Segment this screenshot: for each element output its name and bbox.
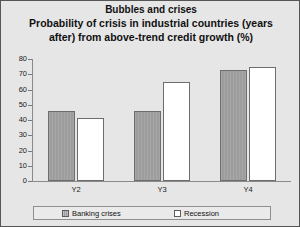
x-axis-tick-label: Y2 (33, 185, 119, 194)
y-axis-tick-label: 70 (7, 70, 27, 78)
plot-area: 01020304050607080 Y2Y3Y4 Banking crises … (7, 59, 295, 199)
legend-swatch-banking-crises (62, 210, 69, 217)
legend-label-recession: Recession (184, 209, 219, 218)
chart-subtitle-line-1: Probability of crisis in industrial coun… (7, 17, 295, 30)
bar (77, 118, 104, 181)
bar (48, 111, 75, 181)
y-axis-tick-label: 0 (7, 177, 27, 185)
x-axis-tick-label: Y4 (205, 185, 291, 194)
bar (249, 67, 276, 181)
y-axis-tick-label: 40 (7, 116, 27, 124)
chart-title: Bubbles and crises (7, 4, 295, 16)
bar-group (220, 59, 276, 181)
y-axis-tick-label: 60 (7, 86, 27, 94)
y-axis-tick-label: 50 (7, 101, 27, 109)
legend-label-banking-crises: Banking crises (72, 209, 121, 218)
x-axis-tick-label: Y3 (119, 185, 205, 194)
bar-group (48, 59, 104, 181)
chart-screenshot: Bubbles and crises Probability of crisis… (0, 0, 300, 227)
y-axis: 01020304050607080 (7, 59, 27, 182)
legend-item-banking-crises[interactable]: Banking crises (62, 208, 121, 219)
bar (134, 111, 161, 181)
bar (220, 70, 247, 181)
bar (163, 82, 190, 181)
y-axis-tick-label: 20 (7, 147, 27, 155)
chart-header: Bubbles and crises Probability of crisis… (7, 4, 295, 44)
y-axis-tick-label: 80 (7, 55, 27, 63)
bar-group (134, 59, 190, 181)
chart-subtitle-line-2: after) from above-trend credit growth (%… (7, 31, 295, 44)
legend-swatch-recession (174, 210, 181, 217)
chart-legend: Banking crises Recession (33, 206, 271, 220)
legend-item-recession[interactable]: Recession (174, 208, 219, 219)
y-axis-tick-label: 30 (7, 131, 27, 139)
bars-layer (33, 59, 291, 181)
y-axis-tick-label: 10 (7, 162, 27, 170)
